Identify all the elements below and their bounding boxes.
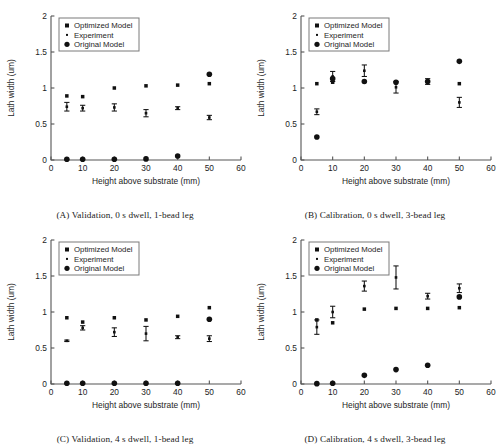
panel-b-caption: (B) Calibration, 0 s dwell, 3-bead leg — [250, 210, 500, 220]
x-tick-label: 0 — [299, 387, 304, 397]
data-point-circle — [175, 380, 181, 386]
x-tick-label: 30 — [141, 163, 151, 173]
panel-b: 010203040506000.511.52Height above subst… — [250, 0, 500, 224]
y-tick-label: 0.5 — [35, 343, 47, 353]
panel-a-plot: 010203040506000.511.52Height above subst… — [0, 0, 250, 196]
panel-a-caption: (A) Validation, 0 s dwell, 1-bead leg — [0, 210, 250, 220]
data-point-dot — [331, 311, 334, 314]
panel-a: 010203040506000.511.52Height above subst… — [0, 0, 250, 224]
series-experiment — [314, 266, 462, 334]
legend-label: Experiment — [324, 255, 364, 264]
data-point-circle — [207, 316, 213, 322]
data-point-square — [176, 315, 180, 319]
data-point-circle — [425, 79, 431, 85]
y-tick-label: 1.5 — [35, 271, 47, 281]
data-point-dot — [81, 107, 84, 110]
data-point-circle — [80, 380, 86, 386]
data-point-square — [113, 316, 117, 320]
x-tick-label: 10 — [78, 163, 88, 173]
x-tick-label: 20 — [360, 387, 370, 397]
y-tick-label: 1.5 — [285, 47, 297, 57]
data-point-circle — [393, 79, 399, 85]
data-point-circle — [425, 362, 431, 368]
panel-d: 010203040506000.511.52Height above subst… — [250, 224, 500, 448]
x-axis-title: Height above substrate (mm) — [92, 176, 200, 186]
data-point-circle — [314, 381, 320, 387]
data-point-square — [113, 86, 117, 90]
y-tick-label: 1 — [292, 307, 297, 317]
data-point-circle — [112, 156, 118, 162]
data-point-dot — [66, 105, 69, 108]
data-point-square — [458, 82, 462, 86]
series-original-model — [64, 316, 212, 386]
y-axis-title: Lath width (um) — [256, 283, 266, 341]
data-point-square — [394, 307, 398, 311]
plot-svg-a: 010203040506000.511.52Height above subst… — [0, 0, 250, 196]
legend-label: Experiment — [74, 255, 114, 264]
data-point-circle — [330, 380, 336, 386]
x-tick-label: 50 — [205, 387, 215, 397]
legend-label: Original Model — [324, 264, 375, 273]
x-tick-label: 0 — [299, 163, 304, 173]
series-experiment — [314, 65, 462, 115]
data-point-dot — [395, 86, 398, 89]
data-point-dot — [81, 327, 84, 330]
data-point-circle — [457, 294, 463, 300]
x-tick-label: 60 — [486, 163, 496, 173]
x-tick-label: 20 — [110, 163, 120, 173]
y-tick-label: 2 — [292, 235, 297, 245]
data-point-dot — [316, 326, 319, 329]
panel-d-plot: 010203040506000.511.52Height above subst… — [250, 224, 500, 420]
x-axis-title: Height above substrate (mm) — [342, 400, 450, 410]
y-axis-title: Lath width (um) — [256, 59, 266, 117]
data-point-square — [144, 318, 148, 322]
series-optimized-model — [315, 306, 461, 325]
data-point-circle — [314, 134, 320, 140]
y-tick-label: 1 — [292, 83, 297, 93]
data-point-dot — [316, 110, 319, 113]
data-point-dot — [145, 332, 148, 335]
legend-square-icon — [65, 248, 69, 252]
legend-label: Original Model — [74, 264, 125, 273]
data-point-square — [144, 84, 148, 88]
data-point-dot — [113, 106, 116, 109]
data-point-dot — [426, 295, 429, 298]
data-point-dot — [208, 116, 211, 119]
data-point-circle — [330, 76, 336, 82]
y-tick-label: 2 — [292, 11, 297, 21]
legend-label: Original Model — [74, 40, 125, 49]
data-point-dot — [176, 107, 179, 110]
x-tick-label: 40 — [423, 387, 433, 397]
legend-label: Optimized Model — [74, 21, 133, 30]
y-tick-label: 0 — [42, 155, 47, 165]
data-point-circle — [143, 156, 149, 162]
x-tick-label: 20 — [110, 387, 120, 397]
data-point-dot — [363, 69, 366, 72]
data-point-dot — [458, 101, 461, 104]
legend-dot-icon — [316, 258, 318, 260]
x-tick-label: 60 — [236, 387, 246, 397]
y-tick-label: 0 — [292, 379, 297, 389]
panel-c-caption: (C) Validation, 4 s dwell, 1-bead leg — [0, 434, 250, 444]
legend-dot-icon — [316, 34, 318, 36]
legend: Optimized ModelExperimentOriginal Model — [309, 18, 389, 51]
legend-label: Optimized Model — [324, 21, 383, 30]
legend-circle-icon — [314, 266, 319, 271]
data-point-square — [65, 316, 69, 320]
x-tick-label: 60 — [486, 387, 496, 397]
x-tick-label: 10 — [78, 387, 88, 397]
y-tick-label: 1.5 — [35, 47, 47, 57]
data-point-square — [208, 82, 212, 86]
x-tick-label: 0 — [49, 163, 54, 173]
data-point-circle — [457, 59, 463, 65]
x-tick-label: 30 — [141, 387, 151, 397]
data-point-dot — [176, 336, 179, 339]
y-tick-label: 1.5 — [285, 271, 297, 281]
legend-label: Original Model — [324, 40, 375, 49]
x-tick-label: 50 — [455, 163, 465, 173]
series-optimized-model — [65, 306, 211, 324]
x-axis-title: Height above substrate (mm) — [342, 176, 450, 186]
data-point-circle — [80, 156, 86, 162]
figure-container: 010203040506000.511.52Height above subst… — [0, 0, 500, 448]
legend-square-icon — [65, 24, 69, 28]
